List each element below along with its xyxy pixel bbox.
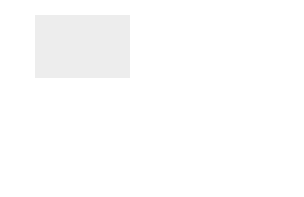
- pharmacokinetics-diagram: [0, 0, 304, 197]
